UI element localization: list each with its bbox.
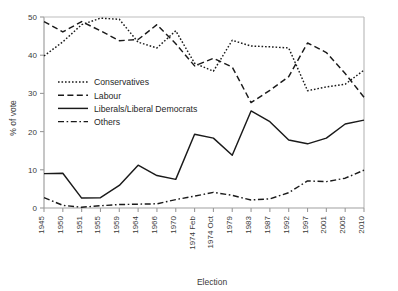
x-tick-label: 1955 (93, 215, 102, 233)
chart-background (0, 0, 398, 291)
x-tick-label: 1951 (75, 215, 84, 233)
x-tick-label: 1964 (131, 215, 140, 233)
x-tick-label: 1987 (263, 215, 272, 233)
x-tick-label: 1974 Oct (206, 215, 215, 248)
legend-label-1: Labour (94, 91, 121, 101)
x-tick-label: 1950 (56, 215, 65, 233)
y-tick-label: 0 (33, 204, 38, 213)
y-axis-title: % of vote (8, 100, 18, 136)
y-tick-label: 10 (28, 166, 37, 175)
x-tick-label: 1959 (112, 215, 121, 233)
x-axis-title: Election (197, 277, 228, 287)
vote-share-line-chart: 01020304050 1945195019511955195919641966… (0, 0, 398, 291)
x-tick-label: 1997 (301, 215, 310, 233)
x-tick-label: 1974 Feb (188, 215, 197, 249)
x-tick-label: 1992 (282, 215, 291, 233)
legend-label-2: Liberals/Liberal Democrats (94, 104, 198, 114)
y-tick-label: 20 (28, 128, 37, 137)
x-tick-label: 1979 (225, 215, 234, 233)
y-tick-label: 40 (28, 51, 37, 60)
legend-label-0: Conservatives (94, 77, 150, 87)
x-tick-label: 1966 (150, 215, 159, 233)
x-tick-label: 2010 (357, 215, 366, 233)
x-tick-label: 1970 (169, 215, 178, 233)
x-tick-label: 2005 (338, 215, 347, 233)
y-tick-label: 30 (28, 89, 37, 98)
legend-label-3: Others (94, 117, 121, 127)
chart-container: 01020304050 1945195019511955195919641966… (0, 0, 398, 291)
y-tick-label: 50 (28, 13, 37, 22)
x-tick-label: 1945 (37, 215, 46, 233)
x-tick-label: 1983 (244, 215, 253, 233)
x-tick-label: 2001 (319, 215, 328, 233)
